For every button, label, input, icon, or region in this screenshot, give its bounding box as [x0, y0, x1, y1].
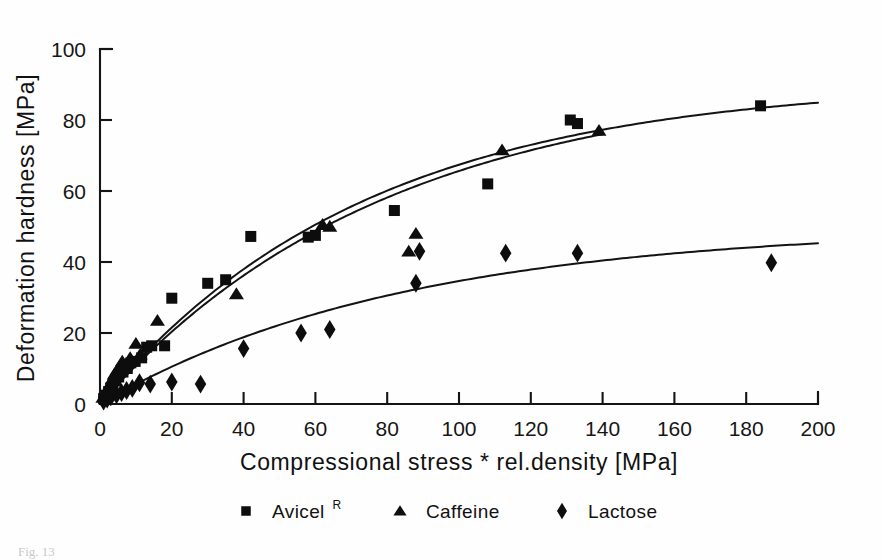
figure-caption: Fig. 13 [18, 544, 55, 559]
x-tick-label: 100 [441, 417, 476, 440]
square-marker [146, 340, 157, 351]
square-marker [241, 506, 251, 516]
x-tick-label: 120 [513, 417, 548, 440]
x-tick-label: 200 [800, 417, 835, 440]
figure-container: Deformation hardness [MPa] 020406080100 … [0, 0, 882, 560]
y-tick-label: 20 [63, 322, 86, 345]
legend-label: Caffeine [426, 501, 500, 522]
square-marker [202, 278, 213, 289]
legend-label: Avicel [272, 501, 325, 522]
y-tick-label: 40 [63, 251, 86, 274]
figure-background [0, 0, 882, 560]
x-tick-label: 140 [585, 417, 620, 440]
y-tick-label: 0 [74, 393, 86, 416]
square-marker [389, 205, 400, 216]
y-axis-label: Deformation hardness [MPa] [13, 74, 39, 382]
square-marker [220, 274, 231, 285]
x-tick-label: 180 [729, 417, 764, 440]
square-marker [310, 230, 321, 241]
x-tick-label: 20 [160, 417, 183, 440]
x-axis-label: Compressional stress * rel.density [MPa] [240, 449, 678, 475]
y-tick-label: 100 [51, 38, 86, 61]
square-marker [482, 178, 493, 189]
legend-label: Lactose [588, 501, 657, 522]
square-marker [159, 340, 170, 351]
x-tick-label: 160 [657, 417, 692, 440]
x-tick-label: 60 [304, 417, 327, 440]
square-marker [245, 231, 256, 242]
y-tick-label: 60 [63, 180, 86, 203]
x-tick-label: 80 [376, 417, 399, 440]
square-marker [572, 118, 583, 129]
square-marker [755, 100, 766, 111]
legend-superscript: R [333, 498, 342, 512]
legend: AvicelRCaffeineLactose [241, 498, 657, 522]
y-tick-label: 80 [63, 109, 86, 132]
square-marker [166, 293, 177, 304]
x-tick-label: 0 [94, 417, 106, 440]
square-marker [136, 352, 147, 363]
chart-canvas: Deformation hardness [MPa] 020406080100 … [0, 0, 882, 560]
x-tick-label: 40 [232, 417, 255, 440]
